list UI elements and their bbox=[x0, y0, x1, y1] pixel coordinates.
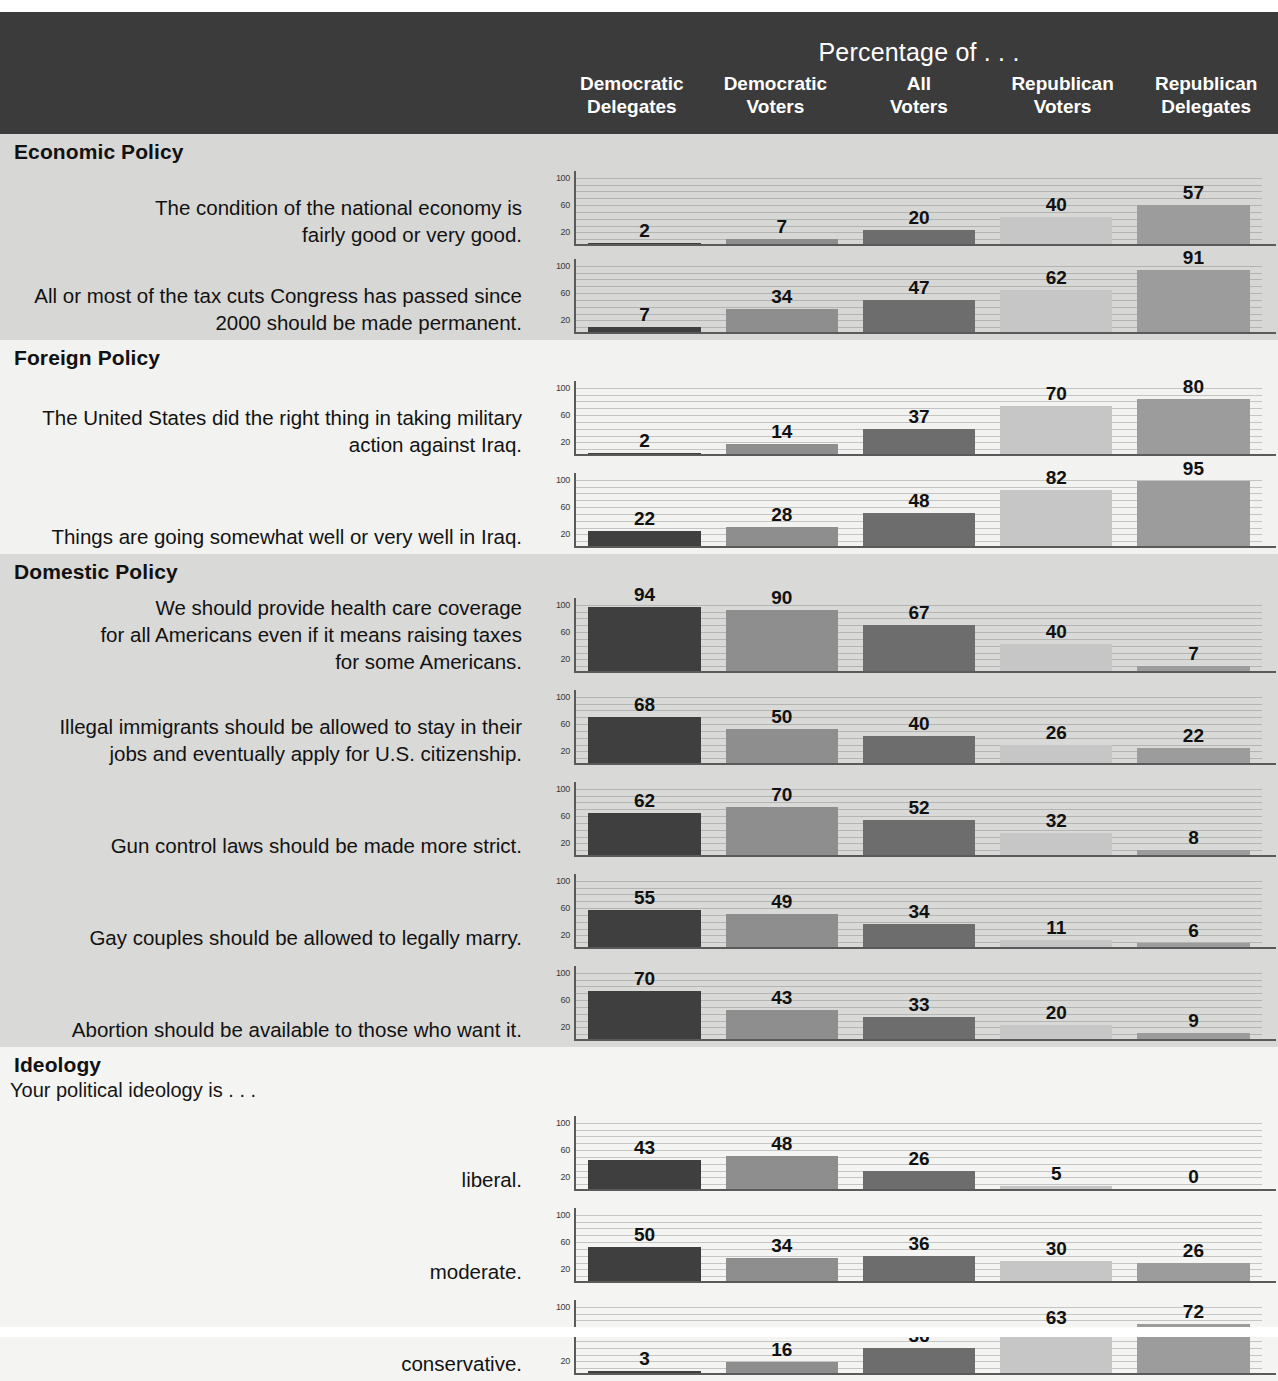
bar-cell: 28 bbox=[713, 473, 850, 546]
bar bbox=[1000, 644, 1113, 671]
row-chart: 100602027204057 bbox=[536, 164, 1278, 252]
row-label-line: for all Americans even if it means raisi… bbox=[0, 621, 522, 648]
column-header-line1: Republican bbox=[1011, 73, 1113, 94]
bar-chart: 100602043482650 bbox=[574, 1116, 1242, 1191]
bar-cell: 0 bbox=[1125, 1116, 1262, 1189]
bar-value-label: 72 bbox=[1125, 1301, 1262, 1324]
bar bbox=[1137, 1033, 1250, 1039]
bar-value-label: 2 bbox=[576, 220, 713, 243]
bar-value-label: 67 bbox=[850, 602, 987, 625]
bar-cell: 26 bbox=[850, 1116, 987, 1189]
y-axis: 1006020 bbox=[544, 782, 572, 857]
section-title-economic-policy: Economic Policy bbox=[14, 140, 184, 164]
bar-chart: 1006020316366372 bbox=[574, 1300, 1242, 1375]
bar-value-label: 2 bbox=[576, 430, 713, 453]
row-label: The condition of the national economy is… bbox=[0, 164, 536, 252]
row-chart: 1006020704333209 bbox=[536, 955, 1278, 1047]
bar bbox=[588, 531, 701, 546]
chart-row: liberal.100602043482650 bbox=[0, 1105, 1278, 1197]
chart-row: All or most of the tax cuts Congress has… bbox=[0, 252, 1278, 340]
bar-cell: 48 bbox=[850, 473, 987, 546]
y-axis-tick: 20 bbox=[561, 1264, 570, 1274]
bar-group: 554934116 bbox=[576, 874, 1262, 947]
bar-group: 6850402622 bbox=[576, 690, 1262, 763]
column-header-line2: Delegates bbox=[1134, 95, 1278, 118]
row-label-line: jobs and eventually apply for U.S. citiz… bbox=[0, 740, 522, 767]
y-axis: 1006020 bbox=[544, 171, 572, 246]
bar-cell: 55 bbox=[576, 874, 713, 947]
y-axis: 1006020 bbox=[544, 874, 572, 949]
rows-wrap-economic-policy: The condition of the national economy is… bbox=[0, 134, 1278, 340]
bar-value-label: 26 bbox=[988, 722, 1125, 745]
bar-chart: 1006020214377080 bbox=[574, 381, 1242, 456]
y-axis-tick: 60 bbox=[561, 1237, 570, 1247]
bar-value-label: 70 bbox=[713, 784, 850, 807]
y-axis: 1006020 bbox=[544, 1300, 572, 1375]
row-label: liberal. bbox=[0, 1105, 536, 1197]
chart-row: Illegal immigrants should be allowed to … bbox=[0, 679, 1278, 771]
column-header-0: DemocraticDelegates bbox=[560, 70, 704, 134]
bar-value-label: 37 bbox=[850, 406, 987, 429]
bar-cell: 37 bbox=[850, 381, 987, 454]
row-chart: 1006020554934116 bbox=[536, 863, 1278, 955]
row-label-line: The United States did the right thing in… bbox=[0, 404, 522, 431]
page-title: Percentage of . . . bbox=[560, 38, 1278, 67]
bar bbox=[588, 1247, 701, 1281]
bar-group: 27204057 bbox=[576, 171, 1262, 244]
row-label: Illegal immigrants should be allowed to … bbox=[0, 679, 536, 771]
y-axis-tick: 20 bbox=[561, 838, 570, 848]
y-axis-tick: 20 bbox=[561, 1022, 570, 1032]
bar-value-label: 40 bbox=[988, 194, 1125, 217]
chart-row: We should provide health care coveragefo… bbox=[0, 584, 1278, 679]
bar-value-label: 40 bbox=[850, 713, 987, 736]
bar bbox=[863, 820, 976, 855]
bar bbox=[726, 1156, 839, 1189]
bar bbox=[1137, 270, 1250, 332]
x-axis-line bbox=[574, 332, 1276, 334]
bar-value-label: 40 bbox=[988, 621, 1125, 644]
bar bbox=[1000, 217, 1113, 244]
bar bbox=[726, 239, 839, 244]
y-axis: 1006020 bbox=[544, 473, 572, 548]
bar-value-label: 6 bbox=[1125, 920, 1262, 943]
bar bbox=[1000, 745, 1113, 763]
chart-row: Abortion should be available to those wh… bbox=[0, 955, 1278, 1047]
row-label-line: moderate. bbox=[0, 1258, 522, 1285]
x-axis-line bbox=[574, 244, 1276, 246]
bar-cell: 11 bbox=[988, 874, 1125, 947]
bar-cell: 95 bbox=[1125, 473, 1262, 546]
y-axis-tick: 60 bbox=[561, 627, 570, 637]
y-axis-tick: 20 bbox=[561, 1356, 570, 1366]
row-label: Abortion should be available to those wh… bbox=[0, 955, 536, 1047]
bar-cell: 36 bbox=[850, 1208, 987, 1281]
bar bbox=[588, 1160, 701, 1189]
bar-group: 704333209 bbox=[576, 966, 1262, 1039]
bar-value-label: 95 bbox=[1125, 458, 1262, 481]
bar-chart: 1006020554934116 bbox=[574, 874, 1242, 949]
bar-value-label: 80 bbox=[1125, 376, 1262, 399]
bar-cell: 70 bbox=[576, 966, 713, 1039]
bar bbox=[726, 309, 839, 332]
bar bbox=[1000, 1025, 1113, 1039]
x-axis-line bbox=[574, 1373, 1276, 1375]
chart-row: Gun control laws should be made more str… bbox=[0, 771, 1278, 863]
bar bbox=[588, 910, 701, 948]
bar-value-label: 50 bbox=[713, 706, 850, 729]
bar bbox=[1000, 1186, 1113, 1189]
row-label-line: for some Americans. bbox=[0, 648, 522, 675]
column-header-1: DemocraticVoters bbox=[704, 70, 848, 134]
bar-cell: 34 bbox=[713, 1208, 850, 1281]
bar-value-label: 7 bbox=[713, 216, 850, 239]
chart-row: The United States did the right thing in… bbox=[0, 370, 1278, 462]
y-axis: 1006020 bbox=[544, 259, 572, 334]
bar-chart: 1006020734476291 bbox=[574, 259, 1242, 334]
bar-value-label: 26 bbox=[1125, 1240, 1262, 1263]
x-axis-line bbox=[574, 1281, 1276, 1283]
bar-value-label: 7 bbox=[1125, 643, 1262, 666]
bar-cell: 26 bbox=[988, 690, 1125, 763]
y-axis-tick: 60 bbox=[561, 1145, 570, 1155]
x-axis-line bbox=[574, 855, 1276, 857]
bar-cell: 62 bbox=[988, 259, 1125, 332]
chart-row: Gay couples should be allowed to legally… bbox=[0, 863, 1278, 955]
bar-cell: 2 bbox=[576, 381, 713, 454]
